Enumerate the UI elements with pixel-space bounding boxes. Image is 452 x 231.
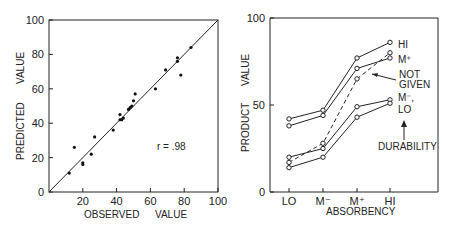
series-marker <box>287 160 291 164</box>
y-axis-label-value: VALUE <box>15 52 26 84</box>
x-tick-label: 100 <box>209 195 227 207</box>
series-marker <box>321 108 325 112</box>
series-label-mplus: M⁺ <box>398 54 411 65</box>
y-tick-label: 80 <box>32 48 44 60</box>
y-tick-label: 0 <box>259 186 265 198</box>
series-line <box>289 100 390 157</box>
identity-line <box>49 20 218 192</box>
series-marker <box>388 101 392 105</box>
series-line <box>289 42 390 119</box>
scatter-plot: 020406080100 20406080100 r = .98 OBSERVE… <box>15 14 227 220</box>
data-point <box>118 113 121 116</box>
data-point <box>154 87 157 90</box>
figure: 020406080100 20406080100 r = .98 OBSERVE… <box>0 0 452 231</box>
durability-arrowhead <box>401 120 407 127</box>
x-tick-label: 40 <box>110 195 122 207</box>
data-point <box>90 153 93 156</box>
legend-title-durability: DURABILITY <box>378 141 437 152</box>
series-marker <box>287 155 291 159</box>
series-label-hi: HI <box>398 39 408 50</box>
series-not-given <box>287 51 392 165</box>
x-axis-label-observed: OBSERVED <box>84 209 139 220</box>
series-marker <box>355 115 359 119</box>
data-point <box>93 135 96 138</box>
y-axis-label-value: VALUE <box>240 54 251 86</box>
data-point <box>176 56 179 59</box>
series-marker <box>355 66 359 70</box>
y-tick-label: 100 <box>247 12 265 24</box>
data-point <box>176 60 179 63</box>
data-point <box>68 171 71 174</box>
series-marker <box>388 40 392 44</box>
correlation-label: r = .98 <box>157 141 186 152</box>
y-tick-label: 0 <box>38 186 44 198</box>
y-tick-label: 20 <box>32 152 44 164</box>
x-tick-label: 60 <box>144 195 156 207</box>
series-marker <box>321 141 325 145</box>
data-point <box>73 146 76 149</box>
series-marker <box>355 56 359 60</box>
series-m- <box>287 56 392 128</box>
series-marker <box>388 51 392 55</box>
series-marker <box>321 113 325 117</box>
series-label-mminus: M⁻, <box>398 92 414 103</box>
not-given-arrowhead <box>372 73 378 77</box>
series-marker <box>355 77 359 81</box>
x-tick-label: LO <box>282 195 297 207</box>
x-axis-label-value: VALUE <box>155 209 187 220</box>
series-line <box>289 53 390 163</box>
series-marker <box>321 146 325 150</box>
series-marker <box>287 165 291 169</box>
data-point <box>81 161 84 164</box>
y-tick-label: 100 <box>26 14 44 26</box>
data-point <box>132 99 135 102</box>
series-lo <box>287 101 392 170</box>
data-point <box>164 68 167 71</box>
y-axis-label-predicted: PREDICTED <box>15 102 26 160</box>
series-label-lo: LO <box>398 104 412 115</box>
x-axis-label-absorbency: ABSORBENCY <box>326 206 396 217</box>
data-point <box>134 92 137 95</box>
y-axis-label-product: PRODUCT <box>240 103 251 152</box>
series-marker <box>355 105 359 109</box>
y-tick-label: 50 <box>253 99 265 111</box>
series-label-given: GIVEN <box>399 79 430 90</box>
x-tick-label: 80 <box>178 195 190 207</box>
data-point <box>179 73 182 76</box>
line-plot: 050100 LOM⁻M⁺HI HI M⁺ NOT GIVEN M⁻, LO D… <box>240 12 438 217</box>
y-tick-label: 60 <box>32 83 44 95</box>
series-marker <box>287 117 291 121</box>
series-m- <box>287 98 392 160</box>
data-point <box>112 128 115 131</box>
x-axis-ticks: LOM⁻M⁺HI <box>282 188 396 207</box>
x-axis-ticks: 20406080100 <box>77 188 228 207</box>
series-marker <box>388 56 392 60</box>
data-point <box>130 104 133 107</box>
data-point <box>122 116 125 119</box>
series-marker <box>321 155 325 159</box>
x-tick-label: 20 <box>77 195 89 207</box>
data-point <box>189 46 192 49</box>
series-line <box>289 58 390 126</box>
series-marker <box>287 124 291 128</box>
line-series <box>287 40 392 170</box>
y-tick-label: 40 <box>32 117 44 129</box>
